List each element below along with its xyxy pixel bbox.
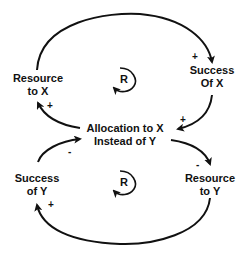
node-resource-to-y-line2: to Y: [182, 185, 238, 198]
link-allocation-to-resource-y: [171, 140, 210, 164]
node-success-of-x: Success Of X: [186, 64, 238, 90]
polarity-resource-x-to-success-x: +: [192, 52, 198, 62]
node-resource-to-x-line2: to X: [10, 85, 66, 98]
link-allocation-to-resource-x: [38, 103, 80, 128]
link-success-y-to-allocation: [38, 139, 80, 162]
polarity-success-y-to-allocation: -: [68, 147, 71, 157]
node-success-of-y: Success of Y: [12, 172, 62, 198]
polarity-allocation-to-resource-y: -: [196, 160, 199, 170]
node-resource-to-y-line1: Resource: [182, 172, 238, 185]
node-resource-to-y: Resource to Y: [182, 172, 238, 198]
node-allocation: Allocation to X Instead of Y: [80, 122, 170, 148]
loop-label-top: R: [120, 73, 128, 85]
polarity-success-x-to-allocation: +: [180, 115, 186, 125]
polarity-resource-y-to-success-y: +: [48, 200, 54, 210]
node-success-of-x-line1: Success: [186, 64, 238, 77]
node-allocation-line2: Instead of Y: [80, 135, 170, 148]
loop-label-bottom: R: [120, 176, 128, 188]
polarity-allocation-to-resource-x: +: [47, 101, 53, 111]
node-success-of-y-line1: Success: [12, 172, 62, 185]
node-resource-to-x-line1: Resource: [10, 72, 66, 85]
node-success-of-x-line2: Of X: [186, 77, 238, 90]
link-resource-y-to-success-y: [37, 198, 210, 244]
node-resource-to-x: Resource to X: [10, 72, 66, 98]
node-success-of-y-line2: of Y: [12, 185, 62, 198]
node-allocation-line1: Allocation to X: [80, 122, 170, 135]
link-resource-x-to-success-x: [37, 14, 212, 70]
